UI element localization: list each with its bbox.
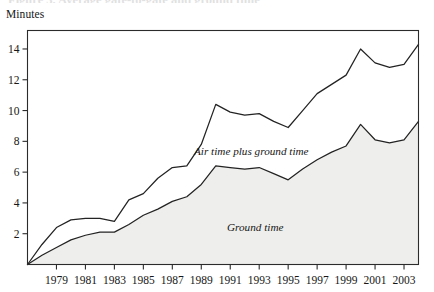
x-tick-label: 1983: [103, 274, 126, 286]
y-tick-label: 4: [14, 197, 20, 209]
x-tick-label: 1993: [248, 274, 271, 286]
y-tick-label: 10: [8, 105, 20, 117]
chart-figure: Figure 3. Average gate-to-gate and groun…: [0, 0, 434, 292]
x-tick-label: 1987: [161, 274, 184, 286]
x-tick-label: 1995: [277, 274, 300, 286]
x-tick-label: 1985: [132, 274, 155, 286]
y-tick-label: 14: [8, 43, 20, 55]
y-tick-label: 8: [14, 135, 20, 147]
x-tick-label: 1999: [335, 274, 358, 286]
y-axis-ticks: 2468101214: [8, 43, 28, 240]
y-tick-label: 12: [8, 74, 20, 86]
x-tick-label: 2003: [393, 274, 416, 286]
series-label-ground-time: Ground time: [227, 221, 283, 233]
x-tick-label: 1991: [219, 274, 242, 286]
ground-time-fill: [28, 121, 419, 264]
area-fill-ground-time: [28, 121, 419, 264]
x-axis-ticks: 1979198119831985198719891991199319951997…: [45, 265, 416, 286]
x-tick-label: 1997: [306, 274, 329, 286]
series-label-air-time-plus-ground-time: Air time plus ground time: [193, 145, 309, 157]
y-tick-label: 2: [14, 228, 20, 240]
x-tick-label: 2001: [364, 274, 387, 286]
x-tick-label: 1979: [45, 274, 68, 286]
y-tick-label: 6: [14, 166, 20, 178]
plot-area: 2468101214 19791981198319851987198919911…: [0, 0, 434, 292]
x-tick-label: 1981: [74, 274, 97, 286]
x-tick-label: 1989: [190, 274, 213, 286]
